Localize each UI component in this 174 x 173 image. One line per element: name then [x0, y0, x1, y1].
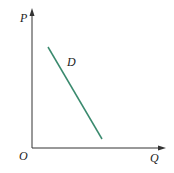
- demand-diagram: P Q O D: [0, 0, 174, 173]
- y-axis-arrow-icon: [30, 8, 35, 16]
- curve-label: D: [66, 55, 76, 69]
- y-axis-label: P: [19, 11, 28, 25]
- x-axis-arrow-icon: [158, 146, 166, 151]
- x-axis-label: Q: [150, 151, 159, 165]
- origin-label: O: [19, 149, 28, 163]
